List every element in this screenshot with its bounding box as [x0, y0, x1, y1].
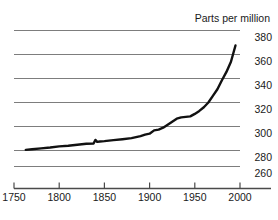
- y-tick-label-260: 260: [254, 167, 272, 179]
- x-tick-label-1950: 1950: [183, 191, 207, 203]
- chart-background: [0, 0, 278, 220]
- y-tick-label-360: 360: [254, 55, 272, 67]
- y-tick-label-320: 320: [254, 103, 272, 115]
- x-tick-label-1900: 1900: [138, 191, 162, 203]
- y-tick-label-380: 380: [254, 31, 272, 43]
- co2-concentration-chart: Parts per million 380360340320300280260 …: [0, 0, 278, 220]
- x-tick-label-1800: 1800: [48, 191, 72, 203]
- x-tick-label-1750: 1750: [2, 191, 26, 203]
- x-tick-label-1850: 1850: [93, 191, 117, 203]
- x-tick-label-2000: 2000: [228, 191, 252, 203]
- y-tick-label-280: 280: [254, 151, 272, 163]
- y-tick-label-340: 340: [254, 79, 272, 91]
- y-tick-label-300: 300: [254, 127, 272, 139]
- chart-canvas: Parts per million 380360340320300280260 …: [0, 0, 278, 220]
- chart-title: Parts per million: [195, 12, 270, 24]
